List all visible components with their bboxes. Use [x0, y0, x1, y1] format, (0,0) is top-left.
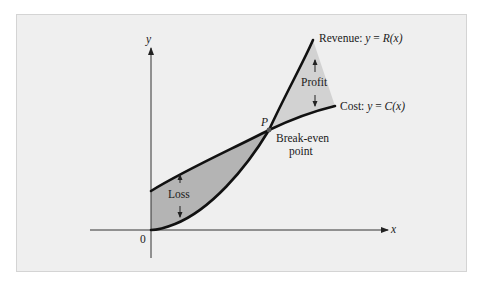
point-p-label: P: [261, 117, 268, 129]
cost-eq-equals: =: [372, 100, 384, 112]
revenue-eq-equals: =: [370, 32, 382, 44]
cost-label: Cost: y = C(x): [340, 101, 405, 113]
break-even-caption-line1: Break-even: [276, 133, 329, 145]
break-even-diagram: [0, 0, 481, 288]
revenue-eq-arg: (x): [390, 32, 403, 44]
x-axis-label: x: [391, 224, 396, 236]
cost-eq-arg: (x): [392, 100, 405, 112]
y-axis-label: y: [146, 34, 151, 46]
break-even-caption-line2: point: [289, 146, 313, 158]
revenue-eq-fn: R: [383, 32, 390, 44]
cost-label-prefix: Cost:: [340, 100, 367, 112]
loss-label: Loss: [168, 189, 190, 201]
origin-label: 0: [140, 234, 146, 246]
profit-label: Profit: [301, 77, 327, 89]
revenue-label-prefix: Revenue:: [319, 32, 365, 44]
revenue-label: Revenue: y = R(x): [319, 33, 402, 45]
